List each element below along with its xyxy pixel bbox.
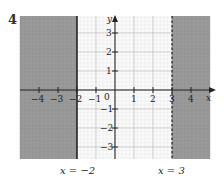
x-axis-label: x [206, 93, 211, 103]
x-tick-label: −4 [31, 94, 45, 104]
x-tick-label: 1 [131, 94, 137, 104]
x-tick-label: −2 [69, 94, 82, 104]
x-tick-label: −3 [50, 94, 64, 104]
y-axis-label: y [106, 14, 113, 24]
origin-label: 0 [104, 92, 110, 102]
y-tick-label: 3 [106, 28, 112, 38]
y-tick-label: −3 [100, 142, 114, 152]
x-tick-label: 4 [188, 94, 194, 104]
x-tick-label: 3 [169, 94, 175, 104]
x-tick-label: 2 [150, 94, 156, 104]
y-tick-label: 1 [106, 66, 112, 76]
x-tick-label: −1 [88, 94, 101, 104]
label-line-left: x = −2 [60, 165, 95, 176]
y-tick-label: −1 [100, 104, 113, 114]
coordinate-graph: −4−3−2−11234321−1−2−3 x y 0 x = −2 x = 3 [0, 0, 224, 181]
y-tick-label: 2 [106, 47, 112, 57]
y-tick-label: −2 [100, 123, 113, 133]
label-line-right: x = 3 [158, 165, 185, 176]
